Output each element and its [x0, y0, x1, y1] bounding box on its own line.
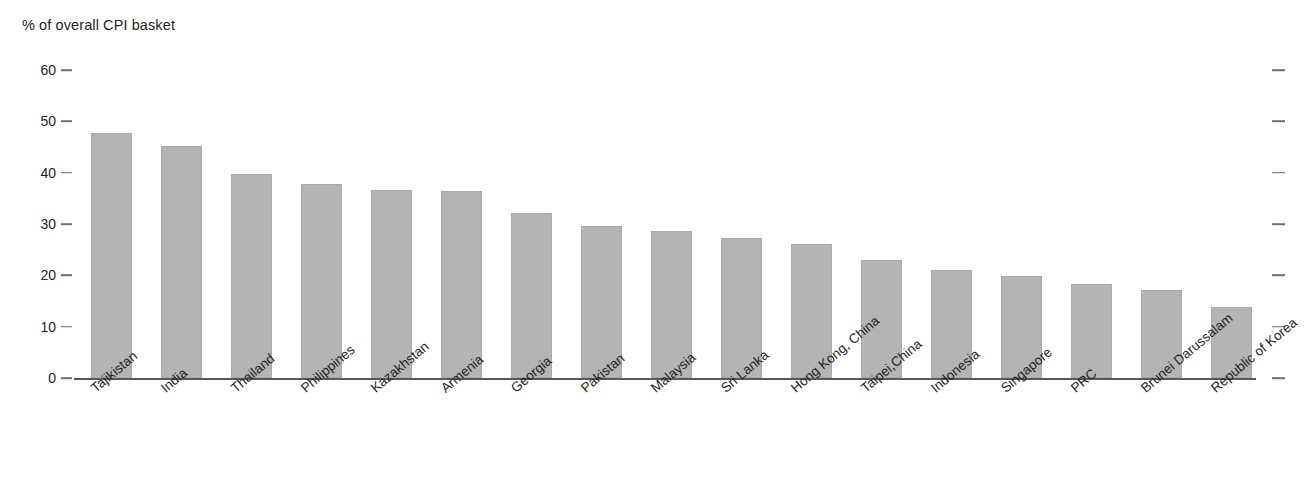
- bar: [441, 191, 482, 378]
- bar: [231, 174, 272, 378]
- y-axis-tick-mark-left: [61, 172, 72, 174]
- y-axis-tick-mark-right: [1272, 69, 1285, 71]
- y-axis-tick-label: 60: [0, 62, 56, 78]
- y-axis-title: % of overall CPI basket: [22, 17, 175, 33]
- y-axis-tick-mark-right: [1272, 223, 1285, 225]
- bar: [371, 190, 412, 378]
- y-axis-tick-mark-left: [61, 69, 72, 71]
- bar: [511, 213, 552, 378]
- y-axis-tick-label: 40: [0, 165, 56, 181]
- y-axis-tick-label: 10: [0, 319, 56, 335]
- y-axis-tick-mark-left: [61, 223, 72, 225]
- y-axis-tick-label: 30: [0, 216, 56, 232]
- bar: [301, 184, 342, 378]
- bar: [1071, 284, 1112, 378]
- bar: [91, 133, 132, 378]
- y-axis-tick-mark-left: [61, 275, 72, 277]
- y-axis-tick-label: 50: [0, 113, 56, 129]
- y-axis-tick-label: 20: [0, 267, 56, 283]
- y-axis-tick-label: 0: [0, 370, 56, 386]
- y-axis-tick-mark-right: [1272, 121, 1285, 123]
- y-axis-tick-mark-right: [1272, 172, 1285, 174]
- y-axis-tick-mark-right: [1272, 275, 1285, 277]
- y-axis-tick-mark-left: [61, 377, 72, 379]
- bar: [161, 146, 202, 378]
- y-axis-tick-mark-left: [61, 326, 72, 328]
- y-axis-tick-mark-right: [1272, 377, 1285, 379]
- y-axis-tick-mark-left: [61, 121, 72, 123]
- cpi-basket-bar-chart: % of overall CPI basket 6050403020100 Ta…: [0, 0, 1306, 500]
